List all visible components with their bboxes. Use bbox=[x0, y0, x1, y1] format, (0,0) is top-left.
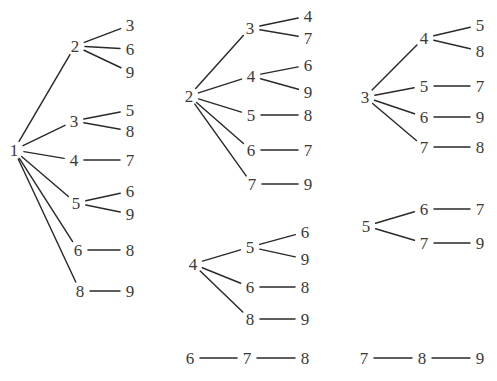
tree-edge bbox=[84, 50, 121, 67]
edges-layer bbox=[18, 18, 470, 358]
node-label-mid: 5 bbox=[246, 238, 255, 257]
node-label-mid: 7 bbox=[420, 138, 429, 157]
node-label-leaf: 9 bbox=[476, 234, 485, 253]
node-label-leaf: 9 bbox=[304, 83, 313, 102]
node-label-leaf: 5 bbox=[126, 101, 135, 120]
node-label-mid: 6 bbox=[74, 241, 83, 260]
tree-edge bbox=[434, 27, 471, 35]
node-label-leaf: 9 bbox=[126, 63, 135, 82]
node-label-leaf: 8 bbox=[304, 106, 313, 125]
node-label-mid: 8 bbox=[246, 310, 255, 329]
node-label-leaf: 8 bbox=[476, 42, 485, 61]
node-label-leaf: 5 bbox=[476, 16, 485, 35]
tree-edge bbox=[23, 125, 65, 145]
node-label-leaf: 9 bbox=[301, 250, 310, 269]
tree-edge bbox=[260, 249, 295, 257]
node-label-root: 2 bbox=[185, 87, 194, 106]
node-label-leaf: 8 bbox=[476, 138, 485, 157]
tree-edge bbox=[375, 88, 414, 95]
tree-edge bbox=[200, 271, 243, 312]
node-label-mid: 5 bbox=[420, 77, 429, 96]
tree-edge bbox=[374, 100, 414, 114]
tree-edge bbox=[199, 79, 242, 93]
node-labels-layer: 1236935847569688923474695867793458576978… bbox=[10, 7, 485, 368]
tree-edge bbox=[197, 103, 244, 144]
node-label-mid: 6 bbox=[246, 278, 255, 297]
node-label-root: 1 bbox=[10, 141, 19, 160]
node-label-root: 3 bbox=[361, 88, 370, 107]
node-label-mid: 6 bbox=[420, 108, 429, 127]
node-label-leaf: 6 bbox=[301, 223, 310, 242]
node-label-mid: 5 bbox=[72, 194, 81, 213]
tree-forest-figure: 1236935847569688923474695867793458576978… bbox=[0, 0, 497, 381]
tree-edge bbox=[84, 29, 120, 43]
tree-edge bbox=[260, 18, 298, 26]
node-label-mid: 4 bbox=[420, 29, 429, 48]
node-label-mid: 8 bbox=[418, 349, 427, 368]
node-label-mid: 4 bbox=[247, 67, 256, 86]
node-label-leaf: 7 bbox=[476, 77, 485, 96]
node-label-mid: 7 bbox=[243, 349, 252, 368]
node-label-root: 6 bbox=[186, 349, 195, 368]
node-label-mid: 7 bbox=[420, 234, 429, 253]
node-label-leaf: 6 bbox=[304, 56, 313, 75]
node-label-mid: 7 bbox=[248, 175, 257, 194]
node-label-mid: 3 bbox=[246, 19, 255, 38]
node-label-root: 4 bbox=[189, 255, 198, 274]
node-label-leaf: 8 bbox=[126, 122, 135, 141]
tree-edge bbox=[19, 158, 72, 241]
tree-edge bbox=[373, 103, 417, 140]
tree-edge bbox=[261, 79, 299, 90]
node-label-leaf: 7 bbox=[476, 200, 485, 219]
tree-edge bbox=[376, 229, 415, 240]
node-label-leaf: 9 bbox=[304, 175, 313, 194]
node-label-mid: 6 bbox=[247, 141, 256, 160]
tree-edge bbox=[22, 157, 69, 197]
tree-edge bbox=[86, 205, 120, 212]
tree-edge bbox=[86, 193, 120, 201]
node-label-leaf: 7 bbox=[126, 151, 135, 170]
node-label-mid: 2 bbox=[71, 37, 80, 56]
node-label-leaf: 9 bbox=[476, 108, 485, 127]
node-label-leaf: 6 bbox=[126, 182, 135, 201]
node-label-leaf: 6 bbox=[126, 40, 135, 59]
node-label-leaf: 4 bbox=[304, 7, 313, 26]
node-label-leaf: 8 bbox=[301, 278, 310, 297]
tree-edge bbox=[434, 40, 471, 48]
node-label-mid: 8 bbox=[76, 282, 85, 301]
node-label-leaf: 9 bbox=[126, 205, 135, 224]
node-label-leaf: 7 bbox=[304, 29, 313, 48]
tree-edge bbox=[372, 45, 417, 90]
tree-edge bbox=[260, 235, 296, 245]
node-label-leaf: 9 bbox=[301, 310, 310, 329]
node-label-leaf: 9 bbox=[476, 349, 485, 368]
tree-edge bbox=[84, 123, 120, 129]
node-label-leaf: 8 bbox=[126, 241, 135, 260]
node-label-leaf: 7 bbox=[304, 141, 313, 160]
tree-edge bbox=[376, 212, 415, 223]
tree-edge bbox=[19, 55, 70, 142]
node-label-mid: 4 bbox=[70, 151, 79, 170]
tree-edge bbox=[203, 250, 241, 261]
node-label-leaf: 9 bbox=[126, 282, 135, 301]
tree-edge bbox=[261, 67, 298, 74]
tree-edge bbox=[85, 47, 120, 49]
node-label-leaf: 3 bbox=[126, 16, 135, 35]
node-label-mid: 3 bbox=[70, 112, 79, 131]
tree-edge bbox=[260, 30, 298, 37]
tree-edge bbox=[84, 112, 120, 119]
node-label-mid: 5 bbox=[247, 106, 256, 125]
node-label-mid: 6 bbox=[420, 200, 429, 219]
node-label-root: 7 bbox=[360, 349, 369, 368]
tree-edge bbox=[202, 268, 240, 284]
node-label-root: 5 bbox=[362, 217, 371, 236]
tree-edge bbox=[24, 152, 64, 159]
forest-diagram-canvas: 1236935847569688923474695867793458576978… bbox=[0, 0, 497, 381]
node-label-leaf: 8 bbox=[301, 349, 310, 368]
